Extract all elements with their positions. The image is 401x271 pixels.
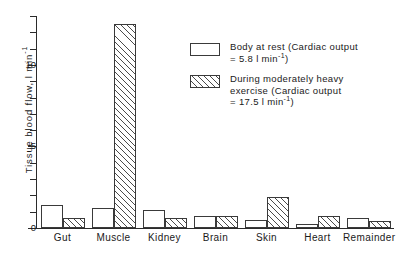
y-axis-minor-tick <box>30 114 36 115</box>
y-axis-minor-tick <box>30 179 36 180</box>
y-axis-minor-tick <box>30 81 36 82</box>
bar-exercise <box>114 24 136 228</box>
legend-exercise-line3-sup: -1 <box>284 95 291 102</box>
y-axis-minor-tick <box>30 195 36 196</box>
x-axis-tick-label: Kidney <box>139 232 190 243</box>
bar-exercise <box>63 218 85 228</box>
y-axis-minor-tick <box>30 49 36 50</box>
bar-exercise <box>267 197 289 228</box>
bar-exercise <box>216 216 238 228</box>
legend-exercise-line3-post: ) <box>291 96 295 107</box>
legend-swatch-exercise <box>190 75 220 88</box>
legend-rest-line2: = 5.8 l min-1) <box>230 53 396 65</box>
bar-exercise <box>369 221 391 228</box>
legend-row-exercise: During moderately heavy exercise (Cardia… <box>190 73 396 108</box>
tissue-blood-flow-bar-chart: Tissue blood flow, l min-1 0510 Body at … <box>0 0 401 271</box>
bar-rest <box>41 205 63 228</box>
chart-legend: Body at rest (Cardiac output = 5.8 l min… <box>190 41 396 117</box>
legend-exercise-line1: During moderately heavy <box>230 73 396 85</box>
bar-group <box>139 16 190 228</box>
legend-exercise-line3-pre: = 17.5 l min <box>230 96 284 107</box>
legend-rest-line2-sup: -1 <box>278 51 285 58</box>
y-axis-ticks: 0510 <box>0 0 36 271</box>
legend-text-rest: Body at rest (Cardiac output = 5.8 l min… <box>230 41 396 64</box>
bar-group <box>37 16 88 228</box>
bar-rest <box>347 218 369 228</box>
bar-exercise <box>165 218 187 228</box>
x-axis-line <box>36 228 394 229</box>
legend-rest-line2-pre: = 5.8 l min <box>230 53 278 64</box>
y-axis-minor-tick <box>30 16 36 17</box>
bar-rest <box>245 220 267 228</box>
x-axis-tick-label: Heart <box>292 232 343 243</box>
y-axis-minor-tick <box>30 32 36 33</box>
y-axis-minor-tick <box>30 212 36 213</box>
bar-rest <box>92 208 114 228</box>
legend-row-rest: Body at rest (Cardiac output = 5.8 l min… <box>190 41 396 64</box>
y-axis-minor-tick <box>30 98 36 99</box>
legend-text-exercise: During moderately heavy exercise (Cardia… <box>230 73 396 108</box>
y-axis-minor-tick <box>30 163 36 164</box>
legend-rest-line2-post: ) <box>285 53 289 64</box>
legend-exercise-line2: exercise (Cardiac output <box>230 85 396 97</box>
legend-rest-line1: Body at rest (Cardiac output <box>230 41 396 53</box>
legend-swatch-rest <box>190 43 220 56</box>
y-axis-tick-label: 5 <box>20 141 36 150</box>
legend-exercise-line3: = 17.5 l min-1) <box>230 96 396 108</box>
bar-rest <box>143 210 165 228</box>
x-axis-tick-label: Muscle <box>88 232 139 243</box>
bar-exercise <box>318 216 340 228</box>
x-axis-tick-label: Gut <box>37 232 88 243</box>
x-axis-tick-label: Remainder <box>343 232 394 243</box>
bar-group <box>88 16 139 228</box>
bar-rest <box>194 216 216 228</box>
y-axis-tick-label: 0 <box>20 223 36 232</box>
x-axis-tick-label: Brain <box>190 232 241 243</box>
bar-rest <box>296 224 318 228</box>
x-axis-tick-label: Skin <box>241 232 292 243</box>
y-axis-minor-tick <box>30 130 36 131</box>
y-axis-tick-label: 10 <box>20 60 36 69</box>
